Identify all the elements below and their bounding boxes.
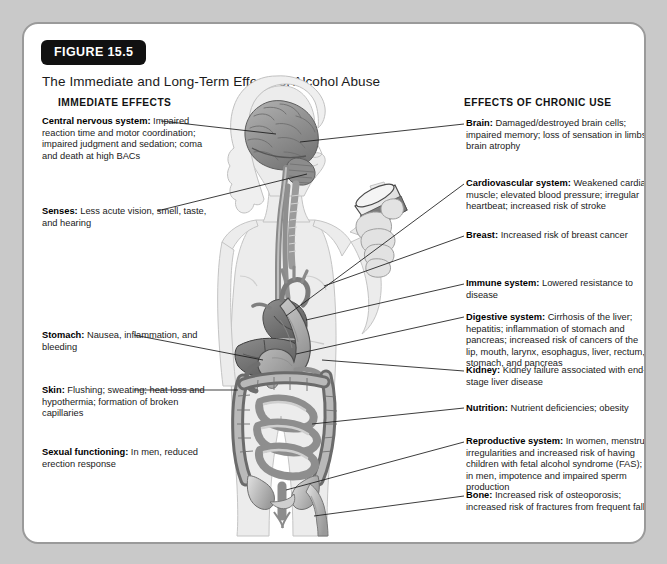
- leader-breast: [324, 236, 464, 286]
- leader-brain: [300, 124, 464, 142]
- label-term-digestive-system: Digestive system:: [466, 312, 545, 322]
- leader-digestive: [296, 317, 464, 354]
- label-reproductive-system: Reproductive system: In women, menstrual…: [466, 436, 646, 494]
- label-term-bone: Bone:: [466, 490, 492, 500]
- leader-nutrition: [312, 408, 464, 424]
- leader-kidney: [322, 360, 464, 371]
- liver: [235, 338, 301, 388]
- breast-contour: [306, 276, 326, 290]
- label-cardiovascular-system: Cardiovascular system: Weakened cardiac …: [466, 178, 646, 213]
- immediate-effects-heading: IMMEDIATE EFFECTS: [58, 97, 171, 108]
- label-bone: Bone: Increased risk of osteoporosis; in…: [466, 490, 646, 513]
- label-senses: Senses: Less acute vision, smell, taste,…: [42, 206, 207, 229]
- small-intestine-highlight: [262, 402, 308, 458]
- figure-card: FIGURE 15.5 The Immediate and Long-Term …: [22, 22, 646, 544]
- figure-title: The Immediate and Long-Term Effects of A…: [42, 74, 380, 89]
- figure-root: FIGURE 15.5 The Immediate and Long-Term …: [0, 0, 667, 564]
- pancreas: [296, 369, 322, 376]
- label-digestive-system: Digestive system: Cirrhosis of the liver…: [466, 312, 646, 370]
- label-term-brain: Brain:: [466, 118, 493, 128]
- hand: [356, 199, 403, 277]
- label-term-senses: Senses:: [42, 206, 78, 216]
- label-term-stomach: Stomach:: [42, 330, 84, 340]
- label-text-nutrition: Nutrient deficiencies; obesity: [508, 403, 629, 413]
- label-term-central-nervous-system: Central nervous system:: [42, 116, 151, 126]
- large-intestine: [237, 376, 337, 516]
- chronic-effects-heading: EFFECTS OF CHRONIC USE: [464, 97, 611, 108]
- label-central-nervous-system: Central nervous system: Impaired reactio…: [42, 116, 207, 162]
- trachea: [289, 184, 300, 266]
- leader-immune: [306, 284, 464, 320]
- label-term-immune-system: Immune system:: [466, 278, 539, 288]
- label-term-cardiovascular-system: Cardiovascular system:: [466, 178, 571, 188]
- body-silhouette: [218, 76, 387, 536]
- heart: [253, 267, 308, 344]
- pelvis: [247, 476, 319, 528]
- drinking-glass: [353, 180, 407, 229]
- diaphragm: [238, 339, 324, 346]
- figure-number-badge: FIGURE 15.5: [41, 40, 146, 65]
- label-kidney: Kidney: Kidney failure associated with e…: [466, 365, 646, 388]
- small-intestine: [257, 399, 317, 477]
- leader-reproductive: [286, 442, 464, 490]
- label-immune-system: Immune system: Lowered resistance to dis…: [466, 278, 646, 301]
- label-term-nutrition: Nutrition:: [466, 403, 508, 413]
- stomach: [246, 298, 310, 391]
- label-text-skin: Flushing; sweating; heat loss and hypoth…: [42, 385, 205, 418]
- label-brain: Brain: Damaged/destroyed brain cells; im…: [466, 118, 646, 153]
- spinal-cord: [278, 168, 286, 324]
- label-breast: Breast: Increased risk of breast cancer: [466, 230, 646, 242]
- leader-cardiovascular: [286, 184, 464, 316]
- esophagus: [285, 186, 288, 298]
- brain: [245, 101, 318, 186]
- breast-contour-left: [240, 276, 257, 286]
- label-sexual-functioning: Sexual functioning: In men, reduced erec…: [42, 447, 207, 470]
- label-skin: Skin: Flushing; sweating; heat loss and …: [42, 385, 207, 420]
- label-nutrition: Nutrition: Nutrient deficiencies; obesit…: [466, 403, 646, 415]
- leader-bone: [314, 496, 464, 516]
- label-term-reproductive-system: Reproductive system:: [466, 436, 563, 446]
- label-term-kidney: Kidney:: [466, 365, 500, 375]
- label-text-brain: Damaged/destroyed brain cells; impaired …: [466, 118, 646, 151]
- label-term-breast: Breast:: [466, 230, 498, 240]
- label-term-skin: Skin:: [42, 385, 65, 395]
- femur: [306, 484, 328, 536]
- label-term-sexual-functioning: Sexual functioning:: [42, 447, 128, 457]
- label-stomach: Stomach: Nausea, inflammation, and bleed…: [42, 330, 207, 353]
- label-text-bone: Increased risk of osteoporosis; increase…: [466, 490, 646, 512]
- label-text-breast: Increased risk of breast cancer: [498, 230, 628, 240]
